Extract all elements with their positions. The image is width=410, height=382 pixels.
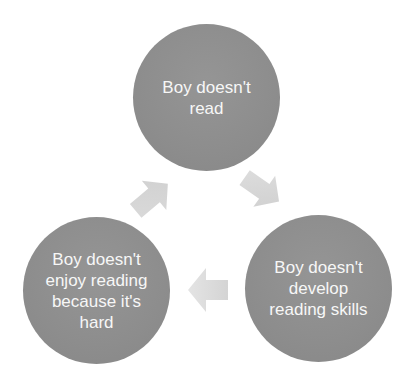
node-boy-doesnt-read: Boy doesn't read — [133, 24, 280, 171]
node-label: Boy doesn't read — [147, 77, 267, 119]
arrow-down-right-icon — [236, 166, 286, 212]
cycle-diagram: Boy doesn't read Boy doesn't develop rea… — [0, 0, 410, 382]
node-boy-doesnt-enjoy-reading: Boy doesn't enjoy reading because it's h… — [23, 217, 170, 364]
node-label: Boy doesn't develop reading skills — [259, 257, 379, 320]
node-label: Boy doesn't enjoy reading because it's h… — [41, 249, 153, 333]
arrow-up-right-icon — [126, 174, 176, 222]
arrow-left-icon — [186, 265, 232, 315]
node-boy-doesnt-develop-skills: Boy doesn't develop reading skills — [245, 215, 392, 362]
